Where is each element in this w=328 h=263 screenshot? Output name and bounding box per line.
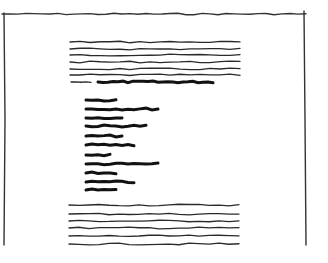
frame-right-edge xyxy=(304,11,306,245)
list-item-line xyxy=(86,100,116,101)
text-line xyxy=(70,74,240,75)
frame-left-edge xyxy=(4,13,5,245)
text-line xyxy=(70,54,240,56)
frame-top-edge xyxy=(2,13,306,15)
list-item-line xyxy=(86,108,158,110)
list-item-line xyxy=(86,189,116,190)
bottom-paragraph xyxy=(69,204,239,245)
heading-bold-line xyxy=(98,81,213,83)
bold-list xyxy=(86,100,158,190)
text-line xyxy=(70,68,240,70)
heading-dash xyxy=(71,82,91,83)
list-item-line xyxy=(86,125,146,127)
text-line xyxy=(69,243,239,245)
list-item-line xyxy=(86,118,122,119)
text-line xyxy=(69,227,239,229)
list-item-line xyxy=(86,135,122,137)
list-item-line xyxy=(86,172,116,174)
text-line xyxy=(69,213,239,214)
list-item-line xyxy=(86,144,134,146)
text-line xyxy=(70,61,240,63)
text-line xyxy=(69,204,239,206)
list-item-line xyxy=(86,163,158,165)
text-line xyxy=(69,235,239,236)
document-sketch xyxy=(0,0,328,263)
text-line xyxy=(69,220,239,222)
text-line xyxy=(70,48,240,50)
list-item-line xyxy=(86,181,134,183)
page-frame xyxy=(2,11,306,245)
heading-line xyxy=(71,81,213,83)
top-paragraph xyxy=(70,41,240,75)
text-line xyxy=(70,41,240,43)
list-item-line xyxy=(86,154,110,155)
